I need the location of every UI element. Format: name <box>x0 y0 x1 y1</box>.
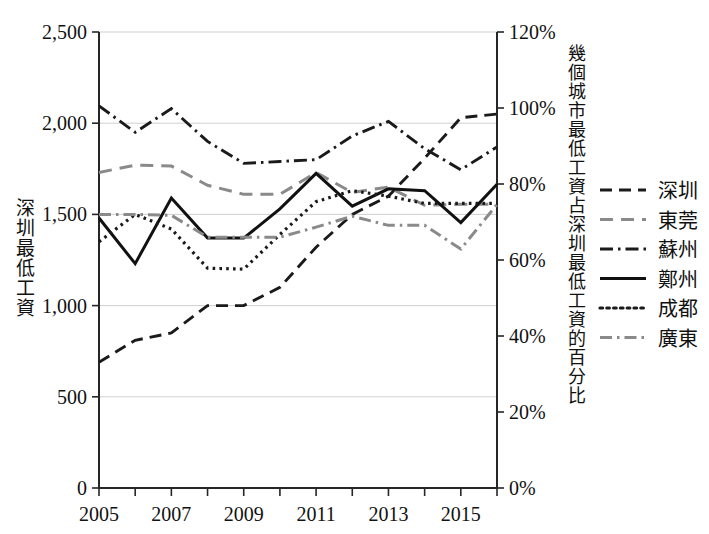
legend-label: 鄭州 <box>658 269 698 291</box>
y-right-tick-label: 60% <box>509 249 546 271</box>
legend-label: 成都 <box>658 298 698 320</box>
y-left-tick-label: 0 <box>77 477 87 499</box>
legend: 深圳東莞蘇州鄭州成都廣東 <box>600 180 698 350</box>
legend-label: 東莞 <box>658 210 698 232</box>
right-axis-title: 幾個城市最低工資占深圳最低工資的百分比 <box>566 44 584 405</box>
y-left-tick-label: 500 <box>57 386 87 408</box>
x-tick-labels: 200520072009201120132015 <box>79 503 481 525</box>
x-tick-label: 2011 <box>296 503 335 525</box>
y-right-tick-label: 80% <box>509 173 546 195</box>
series-line <box>99 173 497 263</box>
y-left-tick-label: 1,500 <box>42 203 87 225</box>
legend-label: 深圳 <box>658 180 698 202</box>
left-axis <box>92 32 497 488</box>
right-axis <box>497 32 504 488</box>
series-line <box>99 106 497 170</box>
chart-root: 05001,0001,5002,0002,500 0%20%40%60%80%1… <box>0 0 709 534</box>
x-tick-label: 2015 <box>441 503 481 525</box>
series-line <box>99 114 497 362</box>
series-line <box>99 191 497 269</box>
series-group <box>99 106 497 362</box>
y-right-tick-label: 40% <box>509 325 546 347</box>
series-line <box>99 165 497 205</box>
minimum-wage-line-chart: 05001,0001,5002,0002,500 0%20%40%60%80%1… <box>0 0 709 534</box>
y-left-tick-label: 2,000 <box>42 112 87 134</box>
left-axis-title: 深圳最低工資 <box>14 198 33 318</box>
x-tick-label: 2013 <box>368 503 408 525</box>
x-tick-label: 2005 <box>79 503 119 525</box>
x-tick-label: 2009 <box>224 503 264 525</box>
y-left-tick-label: 2,500 <box>42 21 87 43</box>
legend-label: 蘇州 <box>658 239 698 261</box>
y-right-tick-label: 20% <box>509 401 546 423</box>
y-right-tick-labels: 0%20%40%60%80%100%120% <box>509 21 556 499</box>
y-right-tick-label: 0% <box>509 477 536 499</box>
x-tick-label: 2007 <box>151 503 191 525</box>
y-right-tick-label: 120% <box>509 21 556 43</box>
y-left-tick-label: 1,000 <box>42 295 87 317</box>
bottom-axis <box>99 488 497 496</box>
legend-label: 廣東 <box>658 328 698 350</box>
y-right-tick-label: 100% <box>509 97 556 119</box>
series-line <box>99 204 497 249</box>
y-left-tick-labels: 05001,0001,5002,0002,500 <box>42 21 87 499</box>
